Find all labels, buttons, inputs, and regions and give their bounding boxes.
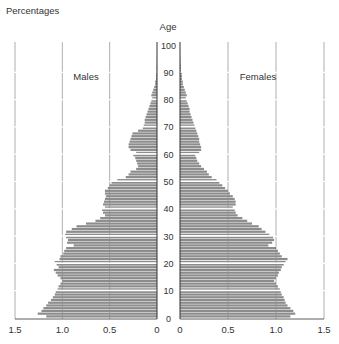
male-bar [138, 130, 157, 132]
female-bar [180, 258, 288, 260]
age-tick: 100 [161, 41, 176, 51]
male-bar [74, 244, 157, 246]
male-bar [149, 105, 157, 107]
male-bar [136, 168, 157, 170]
female-bar [180, 116, 192, 118]
female-bar [180, 315, 290, 317]
female-x-tick: 0.5 [221, 324, 234, 335]
female-bar [180, 280, 274, 282]
female-bar [180, 160, 197, 162]
male-bar [48, 302, 157, 304]
male-bar [152, 97, 157, 98]
female-bar [180, 212, 236, 214]
female-bar [180, 176, 212, 178]
female-bar [180, 138, 199, 140]
female-bar [180, 190, 228, 192]
female-bar [180, 94, 187, 96]
male-bar [145, 119, 157, 121]
male-bar [136, 152, 157, 153]
male-bar [126, 176, 157, 178]
female-bar [180, 203, 236, 205]
male-bar [67, 242, 157, 244]
male-bar [148, 111, 157, 113]
male-bar [60, 277, 157, 279]
male-x-tick: 1.0 [56, 324, 69, 335]
male-bar [60, 255, 157, 257]
males-label: Males [73, 71, 99, 82]
male-x-tick: 1.5 [8, 324, 21, 335]
male-bar [59, 285, 157, 287]
female-bar [180, 119, 192, 121]
male-bar [137, 162, 157, 164]
female-bar [180, 272, 279, 274]
male-bar [63, 252, 157, 254]
female-bar [180, 195, 233, 197]
male-bar [55, 261, 157, 262]
female-bar [180, 141, 199, 143]
male-bar [54, 269, 157, 271]
age-tick: 0 [166, 314, 171, 324]
female-bar [180, 247, 276, 249]
male-bar [64, 250, 157, 252]
female-bar [180, 283, 276, 285]
female-bar [180, 187, 225, 189]
female-bar [180, 299, 285, 301]
male-bars [0, 53, 157, 317]
female-bar [180, 214, 238, 216]
male-bar [106, 195, 157, 197]
female-bar [180, 86, 184, 88]
female-bar [180, 130, 196, 132]
age-tick: 40 [163, 204, 173, 214]
male-bar [108, 187, 157, 189]
age-tick: 20 [163, 259, 173, 269]
y-axis-label: Age [160, 21, 177, 32]
female-bar [180, 239, 274, 241]
female-bar [180, 228, 262, 230]
female-bar [180, 102, 188, 104]
male-bar [152, 91, 157, 93]
male-bar [151, 94, 157, 96]
female-bar [180, 313, 295, 315]
male-bar [105, 190, 157, 192]
age-tick: 60 [163, 150, 173, 160]
female-bar [180, 143, 200, 145]
female-bar [180, 201, 236, 203]
male-bar [56, 272, 157, 274]
male-bar [135, 157, 157, 159]
male-bar [46, 304, 157, 306]
female-bar [180, 220, 247, 222]
female-bar [180, 231, 265, 233]
female-bar [180, 225, 259, 227]
male-x-tick: 0.5 [103, 324, 116, 335]
female-bar [180, 255, 282, 257]
male-bar [51, 299, 157, 301]
male-bar [145, 121, 157, 123]
male-bar [138, 165, 157, 167]
female-bar [180, 89, 185, 91]
chart-title: Percentages [6, 5, 60, 16]
male-bar [148, 108, 157, 110]
female-bar [180, 173, 209, 175]
male-bar [130, 141, 157, 143]
male-bar [65, 234, 157, 235]
female-bar [180, 206, 233, 207]
male-bar [130, 149, 157, 151]
male-bar [130, 171, 157, 173]
male-bar [129, 173, 157, 175]
female-x-tick: 1.0 [269, 324, 282, 335]
population-pyramid-chart: Percentages Age 0102030405060708090100 1… [0, 0, 339, 344]
female-bar [180, 217, 242, 219]
age-tick: 10 [163, 286, 173, 296]
age-tick-labels: 0102030405060708090100 [161, 41, 176, 324]
male-bar [59, 266, 157, 268]
male-bar [72, 228, 157, 230]
female-bar [180, 198, 235, 200]
female-bar [180, 269, 281, 271]
age-tick: 90 [163, 68, 173, 78]
male-bar [66, 231, 157, 233]
male-bar [153, 89, 157, 91]
female-bar [180, 132, 197, 134]
male-bar [105, 214, 157, 216]
female-bar [180, 146, 201, 148]
male-bar [150, 102, 157, 104]
